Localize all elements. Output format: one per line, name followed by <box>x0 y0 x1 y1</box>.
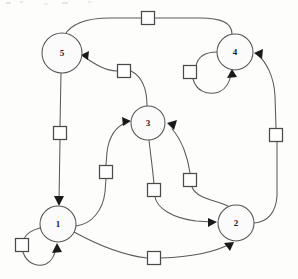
arc-5-to-transition-5to1 <box>60 73 61 126</box>
arc-transition-3to2-to-2 <box>155 197 212 222</box>
arc-transition-1to3-to-3 <box>106 122 127 165</box>
arrowhead-into-1-top <box>54 196 64 206</box>
arc-top-transition-to-5 <box>64 18 141 36</box>
transition-5-to-1[interactable] <box>54 127 67 140</box>
arc-3-to-transition-3to2 <box>149 140 154 184</box>
petri-net-canvas: 5 4 3 1 2 <box>0 0 298 279</box>
arc-transition-1to2-to-2 <box>161 244 230 258</box>
arc-1-to-self-transition <box>24 228 40 239</box>
arc-4-to-top-transition <box>155 18 232 34</box>
transition-3-to-2[interactable] <box>148 184 161 197</box>
transition-4-self[interactable] <box>184 66 197 79</box>
place-1-label: 1 <box>56 219 61 229</box>
transition-2-to-3[interactable] <box>184 174 197 187</box>
scan-artifacts <box>6 1 91 5</box>
petri-net-diagram: 5 4 3 1 2 <box>0 0 298 279</box>
transition-top[interactable] <box>142 12 155 25</box>
arrowhead-into-4-right <box>254 49 263 59</box>
place-4[interactable]: 4 <box>217 34 253 70</box>
transition-2-to-4[interactable] <box>270 129 283 142</box>
transition-1-to-3[interactable] <box>100 166 113 179</box>
arc-4-to-self-transition <box>196 52 217 66</box>
arrowhead-into-2-left <box>208 218 217 227</box>
transition-1-self[interactable] <box>16 239 29 252</box>
place-4-label: 4 <box>233 47 238 57</box>
arc-2-to-transition-2to4 <box>254 142 277 223</box>
place-1[interactable]: 1 <box>40 206 76 242</box>
arrowhead-into-1-bottom <box>52 243 62 253</box>
arc-3-to-transition-3to5 <box>131 71 147 106</box>
place-3-label: 3 <box>146 118 151 128</box>
arc-self-transition-to-4 <box>193 73 231 93</box>
arc-1-to-transition-1to3 <box>76 179 106 226</box>
arc-2-to-transition-2to3 <box>192 187 228 206</box>
place-5-label: 5 <box>60 48 65 58</box>
place-layer: 5 4 3 1 2 <box>40 33 254 242</box>
arc-transition-2to3-to-3 <box>172 129 190 173</box>
arc-transition-2to4-to-4 <box>258 55 276 128</box>
place-2[interactable]: 2 <box>218 205 254 241</box>
transition-3-to-5[interactable] <box>118 65 131 78</box>
place-3[interactable]: 3 <box>131 106 165 140</box>
arc-1-to-transition-1to2 <box>74 232 147 258</box>
place-5[interactable]: 5 <box>42 33 82 73</box>
arrowhead-into-3-left <box>122 117 131 126</box>
place-2-label: 2 <box>234 218 239 228</box>
arc-transition-5to1-to-1 <box>59 140 60 202</box>
transition-1-to-2[interactable] <box>148 252 161 265</box>
